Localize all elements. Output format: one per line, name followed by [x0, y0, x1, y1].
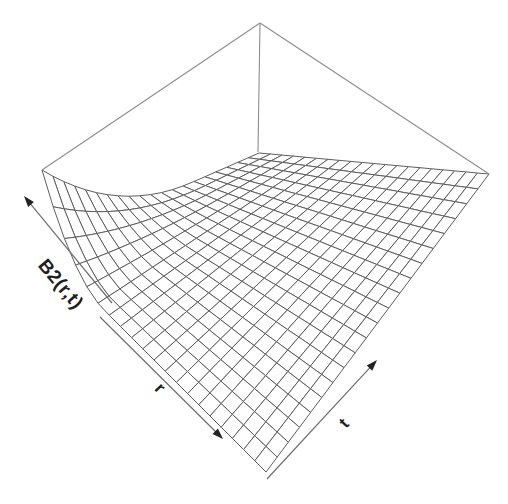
z-axis-arrow-head [24, 196, 34, 207]
surface-plot-canvas: B2(r,t) r t [0, 0, 508, 504]
plot-frame-lines [42, 23, 489, 174]
wireframe-mesh [42, 153, 489, 472]
back-vertical-axis-line [258, 23, 260, 152]
surface-plot-figure: B2(r,t) r t [0, 0, 508, 504]
r-axis-label: r [151, 379, 170, 397]
t-axis-label: t [335, 414, 353, 432]
frame-line-right [260, 23, 489, 174]
frame-line-left [42, 23, 260, 170]
